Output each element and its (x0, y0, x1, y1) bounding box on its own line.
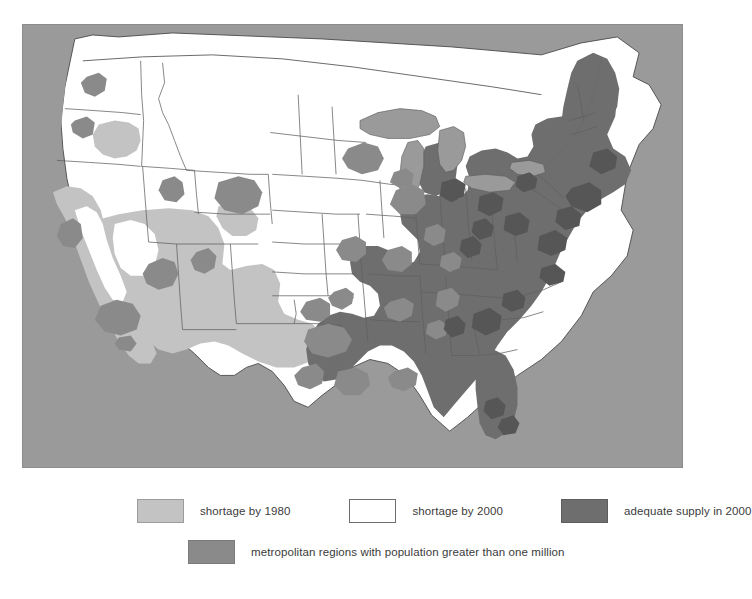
legend-item-adequate-2000: adequate supply in 2000 (561, 499, 752, 523)
map-canvas (22, 24, 683, 468)
legend-label-metro: metropolitan regions with population gre… (251, 546, 565, 558)
metro-swatch (188, 540, 235, 564)
legend-item-shortage-2000: shortage by 2000 (349, 499, 502, 523)
legend-row-metro: metropolitan regions with population gre… (0, 532, 704, 572)
map-legend: shortage by 1980 shortage by 2000 adequa… (0, 490, 704, 572)
adequate-2000-swatch (561, 499, 608, 523)
shortage-2000-swatch (349, 499, 396, 523)
legend-row-primary: shortage by 1980 shortage by 2000 adequa… (0, 490, 704, 532)
legend-item-metro: metropolitan regions with population gre… (188, 540, 565, 564)
legend-label-adequate-2000: adequate supply in 2000 (624, 505, 752, 517)
legend-item-shortage-1980: shortage by 1980 (137, 499, 290, 523)
legend-label-shortage-2000: shortage by 2000 (412, 505, 502, 517)
map-svg (23, 25, 682, 467)
legend-label-shortage-1980: shortage by 1980 (200, 505, 290, 517)
shortage-1980-swatch (137, 499, 184, 523)
